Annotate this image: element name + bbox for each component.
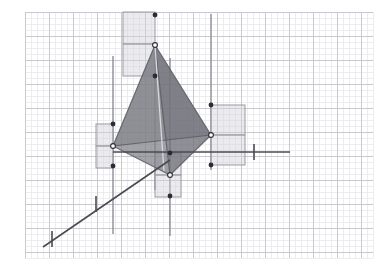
point-right-above[interactable] (209, 103, 214, 108)
geometry-canvas[interactable] (0, 0, 385, 271)
point-left-hollow[interactable] (111, 144, 116, 149)
z-axis-diagonal (43, 160, 170, 247)
square-top[interactable] (123, 12, 155, 44)
point-top-filled[interactable] (153, 13, 158, 18)
square-bottom-low[interactable] (155, 175, 181, 197)
point-bottom-below[interactable] (168, 194, 173, 199)
square-right-lower[interactable] (211, 135, 245, 165)
square-left-lower[interactable] (96, 146, 113, 168)
point-bottom-hollow[interactable] (168, 173, 173, 178)
point-apex-hollow[interactable] (153, 43, 158, 48)
point-top-below[interactable] (153, 74, 158, 79)
point-right-below[interactable] (209, 163, 214, 168)
point-left-above[interactable] (111, 122, 116, 127)
point-left-below[interactable] (111, 164, 116, 169)
square-left-upper[interactable] (96, 124, 113, 146)
point-right-hollow[interactable] (209, 133, 214, 138)
scene-svg[interactable] (0, 0, 385, 271)
point-bottom-above[interactable] (168, 151, 173, 156)
square-right-upper[interactable] (211, 105, 245, 135)
